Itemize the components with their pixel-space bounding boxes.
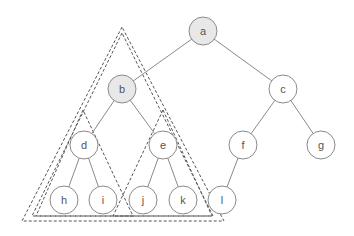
tree-diagram: abcdefghijkl [0,0,354,236]
node-label: c [280,83,286,95]
edge-a-b [122,31,203,89]
node-f: f [229,131,257,159]
node-label: h [61,194,67,206]
node-i: i [89,186,117,214]
node-label: j [141,194,144,206]
node-label: e [160,139,166,151]
node-g: g [307,131,335,159]
node-label: l [221,194,223,206]
node-b: b [108,75,136,103]
edge-a-c [203,31,283,89]
node-c: c [269,75,297,103]
node-label: i [102,194,104,206]
node-k: k [169,186,197,214]
node-label: a [200,25,207,37]
tree-nodes: abcdefghijkl [50,17,335,214]
node-e: e [149,131,177,159]
node-label: g [318,139,324,151]
node-a: a [189,17,217,45]
node-l: l [208,186,236,214]
node-d: d [70,131,98,159]
node-j: j [129,186,157,214]
node-label: b [119,83,125,95]
node-h: h [50,186,78,214]
node-label: d [81,139,87,151]
node-label: k [180,194,186,206]
